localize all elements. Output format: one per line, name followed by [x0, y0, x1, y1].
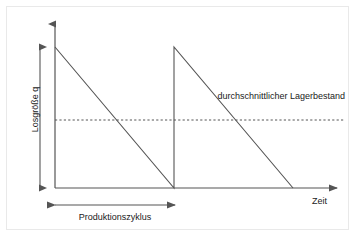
chart-plot [0, 0, 355, 242]
x-axis-label: Zeit [312, 196, 327, 207]
figure-container: Losgröße q Zeit durchschnittlicher Lager… [0, 0, 355, 242]
production-cycle-label: Produktionszyklus [55, 212, 175, 223]
average-inventory-label: durchschnittlicher Lagerbestand [215, 91, 345, 102]
inventory-sawtooth-line [55, 47, 293, 188]
y-axis-label: Losgröße q [30, 65, 41, 155]
